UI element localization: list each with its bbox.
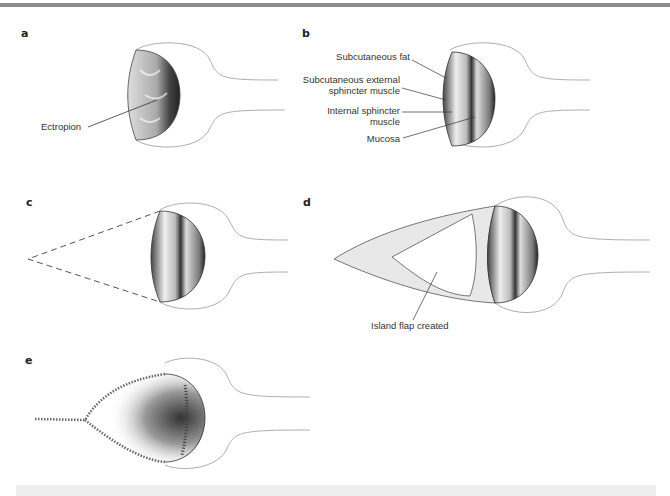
panel-e-drawing [35, 358, 310, 468]
panel-label-a: a [21, 27, 28, 40]
label-subcutaneous-fat: Subcutaneous fat [320, 51, 410, 62]
label-muscle: muscle [300, 116, 400, 127]
label-island-flap: Island flap created [371, 320, 449, 331]
panel-label-b: b [302, 27, 310, 40]
panel-b-drawing [402, 43, 590, 147]
panel-a-drawing [88, 43, 285, 147]
panel-label-d: d [303, 196, 311, 209]
label-subcutaneous-external: Subcutaneous external [290, 74, 400, 85]
panel-c-drawing [28, 203, 288, 309]
label-internal-sphincter: Internal sphincter [300, 105, 400, 116]
label-ectropion: Ectropion [41, 121, 81, 132]
panel-label-c: c [26, 196, 33, 209]
panel-label-e: e [25, 354, 32, 367]
panel-d-drawing [334, 197, 650, 320]
label-mucosa: Mucosa [340, 133, 400, 144]
label-sphincter-muscle: sphincter muscle [290, 85, 400, 96]
